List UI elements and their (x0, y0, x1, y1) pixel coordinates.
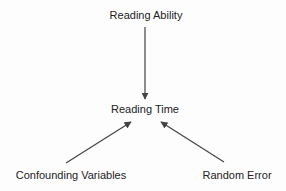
diagram-canvas: Reading Ability Reading Time Confounding… (0, 0, 286, 191)
node-reading-time: Reading Time (111, 103, 179, 116)
diagram-edges (0, 0, 286, 191)
node-random-error: Random Error (202, 169, 271, 182)
edge-confounding-variables-to-reading-time (66, 122, 131, 163)
node-confounding-variables: Confounding Variables (16, 169, 126, 182)
node-reading-ability: Reading Ability (110, 9, 183, 22)
edge-random-error-to-reading-time (161, 122, 224, 162)
